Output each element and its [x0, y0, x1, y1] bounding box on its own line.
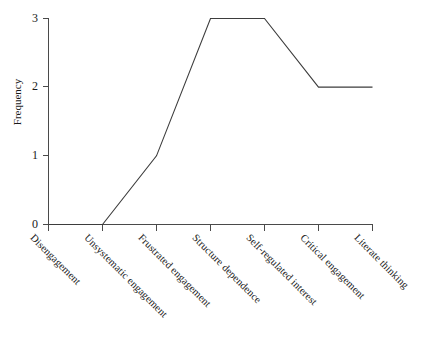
y-axis-title: Frequency: [11, 67, 23, 137]
y-tick-label-3: 3: [22, 11, 38, 26]
y-axis-ticks: [43, 19, 48, 225]
plot-area: [0, 0, 447, 337]
y-tick-label-2: 2: [22, 79, 38, 94]
y-tick-label-1: 1: [22, 148, 38, 163]
y-tick-label-0: 0: [22, 217, 38, 232]
data-line-frequency: [49, 19, 373, 225]
line-chart-figure: Frequency 3 2 1 0 Disengagement Unsystem…: [0, 0, 447, 337]
